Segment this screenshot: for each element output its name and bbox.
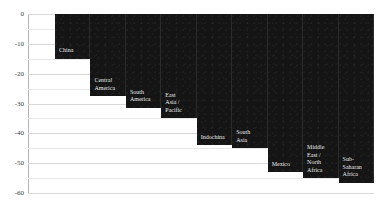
bar: South Asia [232, 14, 267, 148]
bar-label: Sub- Saharan Africa [343, 156, 362, 179]
y-axis-tick-label: -40 [15, 129, 24, 137]
bar: Middle East / North Africa [303, 14, 338, 178]
bar: Sub- Saharan Africa [339, 14, 374, 183]
bar-label: South Asia [236, 129, 250, 144]
bar-label: Central America [94, 77, 115, 92]
y-axis-tick-label: 0 [21, 10, 25, 18]
bar-label: East Asia / Pacific [165, 92, 182, 115]
bar: Central America [90, 14, 125, 96]
bar-label: South America [130, 89, 151, 104]
y-axis-tick-label: -50 [15, 159, 24, 167]
bar: East Asia / Pacific [161, 14, 196, 118]
plot-area: 0-10-20-30-40-50-60 ChinaCentral America… [28, 14, 374, 193]
gridline-major [28, 193, 374, 194]
bar-label: Middle East / North Africa [307, 144, 324, 174]
bar-label: Indochina [201, 134, 225, 142]
bars-layer: ChinaCentral AmericaSouth AmericaEast As… [28, 14, 374, 193]
y-axis-tick-label: -20 [15, 70, 24, 78]
bar-label: Mexico [272, 161, 290, 169]
bar: South America [126, 14, 161, 108]
bar: China [55, 14, 90, 59]
bar: Mexico [268, 14, 303, 172]
bar: Indochina [197, 14, 232, 145]
bar-label: China [59, 47, 73, 55]
y-axis-tick-label: -10 [15, 40, 24, 48]
y-axis-tick-label: -30 [15, 100, 24, 108]
y-axis-tick-label: -60 [15, 189, 24, 197]
bar-chart: 0-10-20-30-40-50-60 ChinaCentral America… [0, 0, 384, 206]
